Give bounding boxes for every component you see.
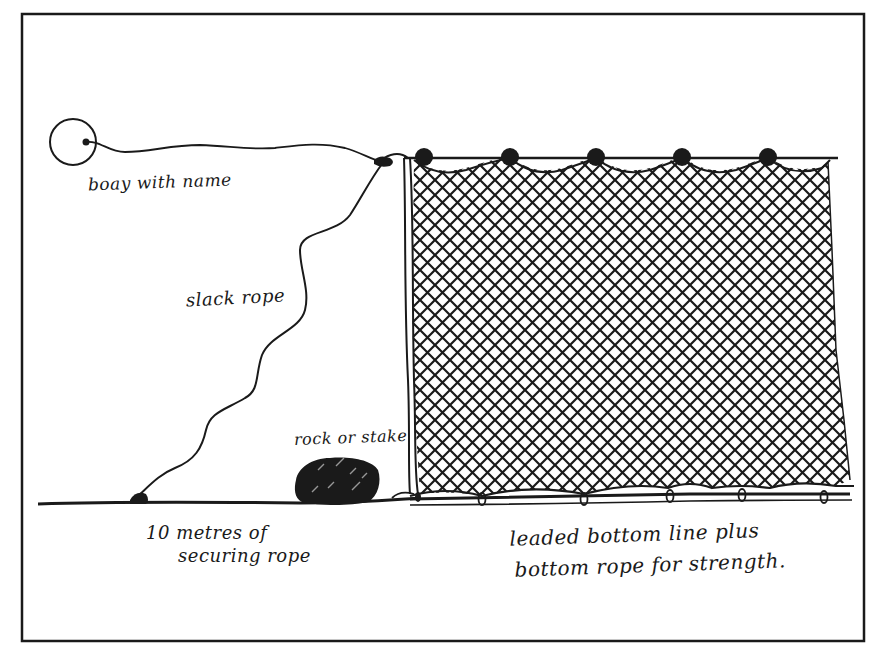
float-2 <box>501 148 519 166</box>
rock-or-stake-label: rock or stake <box>294 426 408 450</box>
float-4 <box>673 148 691 166</box>
net-mesh <box>410 150 855 500</box>
lead-3 <box>667 490 674 502</box>
float-5 <box>759 148 777 166</box>
buoy-line <box>86 142 382 162</box>
float-1 <box>415 148 433 166</box>
float-3 <box>587 148 605 166</box>
securing-rope-label-line1: 10 metres of <box>146 522 311 545</box>
bottom-line-label: leaded bottom line plus bottom rope for … <box>509 517 786 583</box>
securing-rope-label-line2: securing rope <box>146 545 311 568</box>
corner-knot <box>374 156 393 166</box>
securing-knot <box>130 493 148 504</box>
securing-rope-label: 10 metres of securing rope <box>146 522 311 567</box>
lead-6 <box>415 492 421 502</box>
